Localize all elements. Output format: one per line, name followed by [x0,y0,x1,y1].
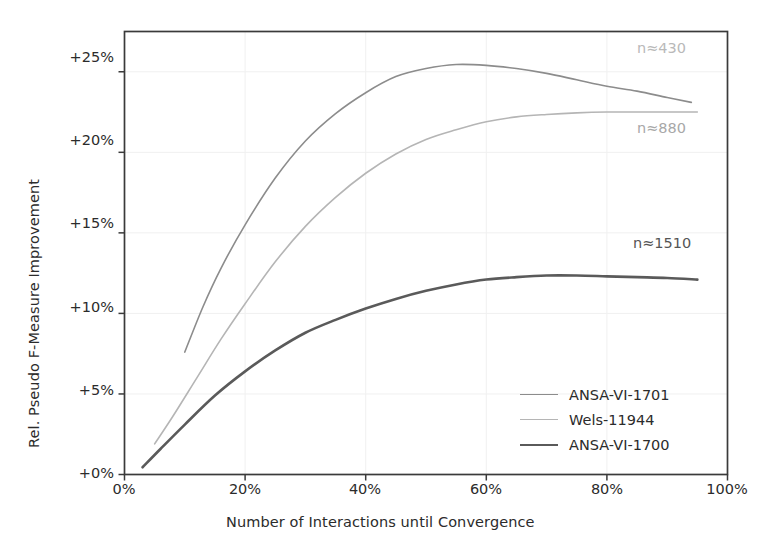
legend-swatch-ansa-1701 [520,394,558,395]
x-tick-label: 60% [446,481,526,497]
legend-label: Wels-11944 [569,412,654,428]
legend-swatch-ansa-1700 [520,444,558,446]
x-tick-label: 40% [325,481,405,497]
legend-swatch-wels-11944 [520,419,558,420]
chart-legend: ANSA-VI-1701 Wels-11944 ANSA-VI-1700 [520,382,710,457]
legend-item[interactable]: Wels-11944 [520,407,710,432]
series-line-ansa-vi-1701 [185,64,692,352]
line-chart-plot [0,0,768,548]
x-tick-label: 20% [205,481,285,497]
legend-label: ANSA-VI-1700 [569,437,670,453]
y-tick-label: +10% [34,299,114,315]
x-tick-label: 100% [687,481,767,497]
y-tick-label: +20% [34,132,114,148]
series-annotation-ansa-1701: n≈430 [637,40,686,56]
x-tick-label: 80% [567,481,647,497]
y-tick-label: +5% [34,382,114,398]
x-axis-title: Number of Interactions until Convergence [226,514,535,530]
legend-item[interactable]: ANSA-VI-1700 [520,432,710,457]
x-tick-label: 0% [84,481,164,497]
legend-item[interactable]: ANSA-VI-1701 [520,382,710,407]
y-tick-label: +25% [34,49,114,65]
series-annotation-ansa-1700: n≈1510 [633,235,691,251]
chart-figure: +25% +20% +15% +10% +5% +0% 0% 20% 40% 6… [0,0,768,548]
y-tick-label: +0% [34,465,114,481]
y-tick-label: +15% [34,215,114,231]
y-axis-title: Rel. Pseudo F-Measure Improvement [26,179,42,448]
series-annotation-wels-11944: n≈880 [637,120,686,136]
legend-label: ANSA-VI-1701 [569,387,670,403]
